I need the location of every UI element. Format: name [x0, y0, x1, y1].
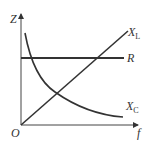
xl-line	[21, 31, 128, 125]
impedance-diagram: Z f O XL R XC	[0, 0, 150, 142]
xc-label: XC	[125, 99, 139, 115]
x-axis-label: f	[137, 126, 142, 140]
xc-curve	[25, 33, 123, 117]
r-label: R	[126, 51, 135, 65]
origin-label: O	[11, 126, 20, 140]
xl-label: XL	[127, 25, 140, 41]
y-axis-label: Z	[10, 12, 17, 26]
